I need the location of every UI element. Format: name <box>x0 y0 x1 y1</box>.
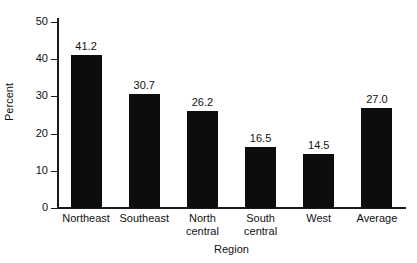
y-tick-mark <box>51 22 57 23</box>
bar <box>303 154 334 208</box>
bar-value-label: 41.2 <box>56 40 116 52</box>
y-tick-label: 0 <box>20 202 48 213</box>
bar-chart: 01020304050 41.230.726.216.514.527.0 Nor… <box>0 0 417 263</box>
x-category-label-line: central <box>227 225 295 238</box>
bar <box>187 111 218 208</box>
bar <box>361 108 392 208</box>
y-tick-mark <box>51 96 57 97</box>
y-tick-mark <box>51 208 57 209</box>
y-tick-mark <box>51 171 57 172</box>
y-tick-label: 10 <box>20 165 48 176</box>
bar-value-label: 16.5 <box>231 132 291 144</box>
plot-area: 01020304050 41.230.726.216.514.527.0 Nor… <box>0 0 417 263</box>
bar-value-label: 30.7 <box>114 79 174 91</box>
x-axis-title: Region <box>57 243 406 255</box>
x-category-label-line: South <box>246 212 275 224</box>
y-axis-title: Percent <box>3 72 15 132</box>
x-axis-line <box>57 207 406 209</box>
x-category-label-line: Northeast <box>62 212 110 224</box>
y-tick-label: 30 <box>20 90 48 101</box>
x-category-label-line: West <box>306 212 331 224</box>
x-category-label-line: Average <box>357 212 398 224</box>
x-category-label: Average <box>343 212 411 225</box>
bar-value-label: 14.5 <box>289 139 349 151</box>
y-tick-label: 20 <box>20 128 48 139</box>
x-category-label-line: North <box>189 212 216 224</box>
bar <box>245 147 276 208</box>
bar-value-label: 27.0 <box>347 93 407 105</box>
y-tick-label: 50 <box>20 16 48 27</box>
bar <box>129 94 160 208</box>
bar <box>71 55 102 208</box>
y-tick-label: 40 <box>20 53 48 64</box>
y-tick-mark <box>51 134 57 135</box>
x-category-label-line: Southeast <box>119 212 169 224</box>
y-tick-mark <box>51 59 57 60</box>
bar-value-label: 26.2 <box>172 96 232 108</box>
